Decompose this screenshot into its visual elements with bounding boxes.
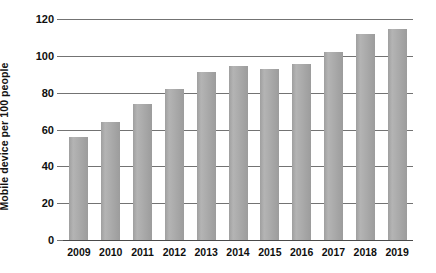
bar [101,122,120,240]
bar-chart: Mobile device per 100 people 02040608010… [0,0,436,273]
bar [292,64,311,240]
y-axis-tick-label: 0 [48,234,54,246]
bar [356,34,375,240]
y-axis-tick [57,240,63,241]
bars-group [63,19,413,240]
x-axis-tick-label: 2009 [67,246,90,258]
bar [324,52,343,240]
y-axis-title: Mobile device per 100 people [0,0,26,273]
x-axis-tick-label: 2013 [194,246,217,258]
bar [388,29,407,240]
y-axis-tick-label: 60 [42,124,54,136]
x-axis-tick-label: 2010 [99,246,122,258]
x-axis-tick-label: 2017 [322,246,345,258]
bar [69,137,88,240]
y-axis-tick-label: 80 [42,87,54,99]
x-axis-tick-labels: 2009201020112012201320142015201620172018… [63,246,413,266]
x-axis-tick-label: 2019 [385,246,408,258]
x-axis-tick-label: 2016 [290,246,313,258]
bar [197,72,216,240]
x-axis-tick-label: 2015 [258,246,281,258]
gridline [63,240,413,241]
bar [165,89,184,240]
y-axis-tick-label: 40 [42,160,54,172]
bar [133,104,152,240]
x-axis-tick-label: 2011 [131,246,154,258]
y-axis-tick-label: 120 [36,13,54,25]
x-axis-tick-label: 2014 [226,246,249,258]
x-axis-tick-label: 2012 [163,246,186,258]
bar [260,69,279,240]
bar [229,66,248,240]
plot-area: 020406080100120 [63,19,413,240]
x-axis-tick-label: 2018 [354,246,377,258]
y-axis-tick-label: 20 [42,197,54,209]
y-axis-tick-label: 100 [36,50,54,62]
